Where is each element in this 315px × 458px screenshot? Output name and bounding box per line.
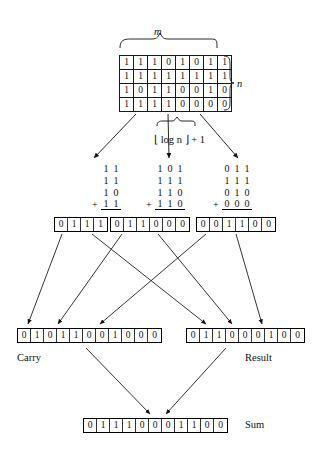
- bit-cell: 1: [175, 419, 188, 432]
- matrix-cell-r2-c7: 0: [218, 84, 232, 98]
- addend-row: 11: [92, 162, 121, 174]
- bit-cell: 0: [214, 419, 227, 432]
- matrix-cell-r1-c4: 1: [176, 70, 190, 84]
- arrow-result-to-sum: [166, 348, 226, 414]
- bit-cell: 0: [84, 419, 97, 432]
- addend-bit: 1: [111, 175, 121, 186]
- bit-cell: 1: [124, 218, 137, 231]
- arrow-left-to-carry: [28, 234, 62, 324]
- bit-cell: 1: [81, 218, 94, 231]
- bit-cell: 0: [44, 329, 57, 342]
- addend-bit: 1: [101, 163, 111, 174]
- addend-bit: 1: [111, 163, 121, 174]
- matrix-cell-r0-c1: 1: [134, 56, 148, 70]
- addend-bit: 1: [155, 163, 165, 174]
- matrix-cell-r2-c6: 1: [204, 84, 218, 98]
- addend-bit: 1: [101, 187, 111, 198]
- arrow-mid-to-carry: [58, 234, 122, 324]
- matrix-cell-r0-c5: 0: [190, 56, 204, 70]
- bit-cell: 0: [135, 329, 148, 342]
- arrow-carry-to-sum: [86, 348, 150, 414]
- label-result: Result: [245, 352, 272, 363]
- addend-bit: 1: [175, 163, 185, 174]
- addend-bit: 1: [155, 175, 165, 186]
- bit-cell: 0: [197, 218, 210, 231]
- matrix-cell-r1-c5: 1: [190, 70, 204, 84]
- bit-cell: 1: [31, 329, 44, 342]
- matrix-cell-r3-c6: 0: [204, 98, 218, 112]
- bit-cell: 0: [249, 218, 262, 231]
- bit-cell: 0: [122, 329, 135, 342]
- addend-row: 11: [92, 174, 121, 186]
- addend-row: +11: [92, 198, 121, 210]
- bit-cell: 0: [83, 329, 96, 342]
- addend-row: +000: [213, 198, 252, 210]
- addend-bit: 0: [175, 198, 185, 210]
- bit-cell: 0: [96, 329, 109, 342]
- bit-cell: 0: [149, 419, 162, 432]
- matrix-cell-r1-c3: 1: [162, 70, 176, 84]
- matrix-cell-r1-c1: 1: [134, 70, 148, 84]
- matrix-row: 11110000: [120, 98, 232, 112]
- arrow-left-to-result: [92, 234, 206, 324]
- matrix-cell-r3-c4: 0: [176, 98, 190, 112]
- matrix-row: 10110010: [120, 84, 232, 98]
- matrix-cell-r0-c7: 1: [218, 56, 232, 70]
- addend-bit: 0: [111, 187, 121, 198]
- bit-cell: 0: [239, 329, 252, 342]
- matrix-cell-r3-c7: 0: [218, 98, 232, 112]
- bit-cell: 1: [200, 329, 213, 342]
- matrix-cell-r0-c3: 0: [162, 56, 176, 70]
- bit-cell: 1: [236, 218, 249, 231]
- addend-row: 010: [213, 186, 252, 198]
- partial-sum-strip-left: 0111: [54, 217, 108, 232]
- addend-row: +110: [146, 198, 185, 210]
- addend-bit: 0: [222, 163, 232, 174]
- addend-bit: 1: [165, 175, 175, 186]
- bit-cell: 0: [150, 218, 163, 231]
- plus-sign: +: [92, 199, 101, 210]
- bit-cell: 0: [187, 329, 200, 342]
- bit-cell: 0: [18, 329, 31, 342]
- matrix-cell-r2-c1: 0: [134, 84, 148, 98]
- bit-cell: 0: [226, 329, 239, 342]
- arrow-mid-to-result: [158, 234, 232, 324]
- bit-cell: 1: [97, 419, 110, 432]
- matrix-cell-r3-c3: 1: [162, 98, 176, 112]
- bit-cell: 1: [213, 329, 226, 342]
- addend-bit: 1: [155, 198, 165, 210]
- arrow-matrix-to-left: [94, 114, 136, 158]
- addition-group-left: 111110+11: [92, 162, 121, 210]
- addend-bit: 1: [232, 175, 242, 186]
- addend-row: 10: [92, 186, 121, 198]
- binary-matrix: 11101011111111111011001011110000: [119, 55, 232, 112]
- label-formula: ⌊ log n ⌋ + 1: [154, 133, 205, 145]
- matrix-cell-r3-c2: 1: [148, 98, 162, 112]
- result-strip: 011000100: [186, 328, 305, 343]
- addend-bit: 1: [242, 175, 252, 186]
- bit-cell: 1: [94, 218, 107, 231]
- label-carry: Carry: [17, 352, 41, 363]
- bit-cell: 1: [265, 329, 278, 342]
- bit-cell: 1: [110, 419, 123, 432]
- matrix-cell-r3-c5: 0: [190, 98, 204, 112]
- addend-bit: 1: [165, 198, 175, 210]
- addend-bit: 1: [165, 187, 175, 198]
- brace-formula: [157, 117, 195, 126]
- bit-cell: 1: [123, 419, 136, 432]
- bit-cell: 0: [278, 329, 291, 342]
- bit-cell: 1: [68, 218, 81, 231]
- bit-cell: 0: [291, 329, 304, 342]
- addend-bit: 0: [242, 198, 252, 210]
- bit-cell: 0: [148, 329, 161, 342]
- arrow-right-to-carry: [100, 234, 206, 324]
- brace-m: [120, 33, 217, 48]
- addend-row: 110: [146, 186, 185, 198]
- bit-cell: 1: [137, 218, 150, 231]
- matrix-cell-r2-c4: 0: [176, 84, 190, 98]
- matrix-cell-r2-c5: 0: [190, 84, 204, 98]
- bit-cell: 0: [55, 218, 68, 231]
- addend-row: 111: [146, 174, 185, 186]
- addend-bit: 1: [175, 175, 185, 186]
- bit-cell: 0: [201, 419, 214, 432]
